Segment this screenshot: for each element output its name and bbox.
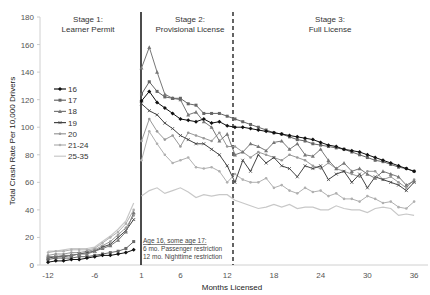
legend-label: 25-35 (68, 152, 89, 161)
legend-label: 17 (68, 96, 77, 105)
annotation-line-3: 12 mo. Nighttime restriction (143, 253, 222, 261)
legend-item-16: 16 (54, 85, 77, 94)
legend-label: 16 (68, 85, 77, 94)
y-tick-label: 40 (25, 206, 34, 215)
x-axis-title: Months Licensed (202, 283, 262, 292)
y-tick-label: 120 (21, 96, 35, 105)
y-tick-label: 0 (30, 261, 35, 270)
stage-3-title: Stage 3: (315, 15, 345, 24)
annotation-line-1: Age 16, some age 17: (143, 237, 207, 245)
legend-label: 21-24 (68, 141, 89, 150)
legend-item-21-24: 21-24 (54, 141, 89, 150)
legend-item-18: 18 (54, 107, 77, 116)
stage-1-subtitle: Learner Permit (62, 25, 116, 34)
annotation-line-2: 6 mo. Passenger restriction (143, 245, 223, 253)
series-lines (46, 45, 416, 264)
y-tick-label: 160 (21, 41, 35, 50)
series-17 (47, 80, 416, 261)
x-tick-label: 24 (316, 271, 325, 280)
legend-item-17: 17 (54, 96, 77, 105)
x-tick-label: 18 (269, 271, 278, 280)
x-tick-label: 30 (363, 271, 372, 280)
crash-rate-chart: 020406080100120140160180-12-616121824303… (0, 0, 430, 295)
legend-label: 18 (68, 107, 77, 116)
x-tick-label: 6 (178, 271, 183, 280)
legend-label: 20 (68, 130, 77, 139)
y-tick-label: 180 (21, 13, 35, 22)
y-tick-label: 140 (21, 68, 35, 77)
stage-2-title: Stage 2: (175, 15, 205, 24)
stage-1-title: Stage 1: (73, 15, 103, 24)
legend-item-20: 20 (54, 130, 77, 139)
restriction-annotation: Age 16, some age 17: 6 mo. Passenger res… (143, 237, 223, 261)
y-tick-label: 80 (25, 151, 34, 160)
series-19 (47, 102, 416, 259)
x-tick-label: 12 (223, 271, 232, 280)
x-tick-label: -12 (42, 271, 54, 280)
series-20 (47, 118, 416, 257)
y-tick-label: 100 (21, 123, 35, 132)
y-axis-title: Total Crash Rate Per 10,000 Drivers (8, 77, 17, 206)
x-tick-label: 1 (139, 271, 144, 280)
y-tick-label: 60 (25, 178, 34, 187)
series-25-35 (48, 188, 414, 251)
stage-2-subtitle: Provisional License (156, 25, 225, 34)
x-tick-label: -6 (91, 271, 99, 280)
y-tick-label: 20 (25, 233, 34, 242)
legend: 161718192021-2425-35 (54, 85, 89, 161)
x-tick-label: 36 (410, 271, 419, 280)
legend-item-25-35: 25-35 (54, 152, 89, 161)
stage-labels: Stage 1: Learner Permit Stage 2: Provisi… (62, 15, 352, 34)
legend-item-19: 19 (54, 119, 77, 128)
series-21-24 (47, 130, 416, 254)
legend-label: 19 (68, 119, 77, 128)
stage-3-subtitle: Full License (309, 25, 352, 34)
